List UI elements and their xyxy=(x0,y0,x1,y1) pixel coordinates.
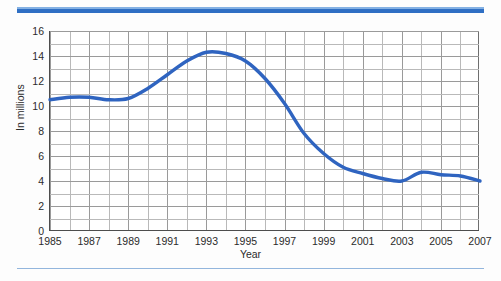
series-line-path xyxy=(50,52,480,182)
x-tick-label: 1999 xyxy=(312,235,335,247)
x-tick-label: 2003 xyxy=(390,235,413,247)
x-tick-label: 2005 xyxy=(429,235,452,247)
y-tick-label: 4 xyxy=(38,175,44,187)
x-tick-label: 1989 xyxy=(116,235,139,247)
x-tick-label: 1997 xyxy=(273,235,296,247)
y-axis-title: In millions xyxy=(14,84,26,131)
plot-area: 0246810121416 19851987198919911993199519… xyxy=(49,31,479,231)
x-tick-label: 1985 xyxy=(38,235,61,247)
y-tick-label: 2 xyxy=(38,200,44,212)
x-axis-title: Year xyxy=(0,248,501,260)
series-line-chart xyxy=(50,31,480,231)
x-tick-label: 1987 xyxy=(77,235,100,247)
x-tick-label: 2001 xyxy=(351,235,374,247)
chart-figure: 0246810121416 19851987198919911993199519… xyxy=(0,0,501,281)
x-tick-label: 1993 xyxy=(195,235,218,247)
x-tick-label: 2007 xyxy=(468,235,491,247)
y-tick-label: 6 xyxy=(38,150,44,162)
y-tick-label: 14 xyxy=(32,50,44,62)
footer-rule xyxy=(17,268,484,269)
y-tick-label: 10 xyxy=(32,100,44,112)
header-rule xyxy=(17,9,484,13)
y-tick-label: 8 xyxy=(38,125,44,137)
y-tick-label: 16 xyxy=(32,25,44,37)
x-tick-label: 1995 xyxy=(234,235,257,247)
y-tick-label: 12 xyxy=(32,75,44,87)
x-tick-label: 1991 xyxy=(156,235,179,247)
